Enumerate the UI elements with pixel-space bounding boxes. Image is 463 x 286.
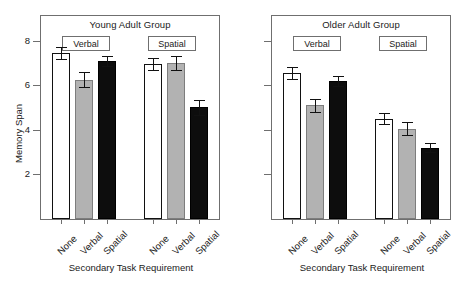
- x-tick-mark: [84, 220, 85, 224]
- error-bar-stem: [407, 122, 408, 134]
- x-tick-mark: [315, 220, 316, 224]
- error-bar-cap-bottom: [102, 66, 113, 67]
- y-tick-mark: [264, 41, 271, 42]
- x-tick-label-spatial: Spatial: [424, 228, 452, 256]
- y-tick-label: 8: [14, 36, 30, 45]
- error-bar-cap-bottom: [194, 115, 205, 116]
- bar-older-verbal-spatial: [329, 81, 347, 219]
- error-bar-cap-top: [56, 47, 67, 48]
- x-tick-label-verbal: Verbal: [170, 230, 197, 257]
- x-tick-label-spatial: Spatial: [193, 228, 221, 256]
- y-tick-mark: [264, 130, 271, 131]
- bar-older-spatial-verbal: [398, 129, 416, 219]
- error-bar-cap-top: [379, 113, 390, 114]
- y-tick-mark: [264, 174, 271, 175]
- error-bar-cap-top: [79, 72, 90, 73]
- bar-older-spatial-none: [375, 119, 393, 219]
- y-tick-mark: [33, 41, 40, 42]
- error-bar-cap-bottom: [287, 79, 298, 80]
- figure-caption-cutoff: [0, 279, 463, 286]
- error-bar-cap-top: [194, 100, 205, 101]
- error-bar-stem: [430, 143, 431, 152]
- error-bar-cap-bottom: [310, 112, 321, 113]
- x-tick-label-verbal: Verbal: [401, 230, 428, 257]
- x-tick-label-verbal: Verbal: [78, 230, 105, 257]
- x-tick-label-none: None: [147, 233, 171, 257]
- error-bar-stem: [292, 67, 293, 79]
- x-tick-mark: [292, 220, 293, 224]
- x-tick-mark: [107, 220, 108, 224]
- y-tick-label: 2: [14, 169, 30, 178]
- error-bar-cap-bottom: [333, 86, 344, 87]
- y-tick-mark: [264, 85, 271, 86]
- bar-young-spatial-spatial: [190, 107, 208, 219]
- y-tick-label: 4: [14, 125, 30, 134]
- x-tick-mark: [430, 220, 431, 224]
- x-tick-mark: [61, 220, 62, 224]
- x-tick-label-spatial: Spatial: [332, 228, 360, 256]
- error-bar-cap-bottom: [79, 87, 90, 88]
- figure-bar-chart-memory-span: Memory Span 2468 Young Adult Group Verba…: [0, 0, 463, 286]
- plot-area-right: [272, 16, 450, 219]
- error-bar-stem: [107, 56, 108, 66]
- error-bar-cap-bottom: [171, 70, 182, 71]
- error-bar-cap-bottom: [56, 59, 67, 60]
- x-tick-label-none: None: [378, 233, 402, 257]
- error-bar-cap-top: [402, 122, 413, 123]
- error-bar-cap-top: [310, 99, 321, 100]
- bar-young-verbal-none: [52, 53, 70, 219]
- bar-older-verbal-none: [283, 73, 301, 219]
- error-bar-cap-top: [287, 67, 298, 68]
- x-tick-mark: [407, 220, 408, 224]
- bar-young-spatial-verbal: [167, 63, 185, 219]
- error-bar-cap-bottom: [379, 124, 390, 125]
- panel-young-adult-group: Memory Span 2468 Young Adult Group Verba…: [0, 0, 232, 286]
- x-tick-mark: [384, 220, 385, 224]
- error-bar-stem: [384, 113, 385, 124]
- y-tick-mark: [33, 85, 40, 86]
- bar-older-verbal-verbal: [306, 105, 324, 219]
- bar-older-spatial-spatial: [421, 148, 439, 219]
- x-axis-title-left: Secondary Task Requirement: [40, 262, 222, 273]
- error-bar-cap-bottom: [425, 152, 436, 153]
- bar-young-spatial-none: [144, 64, 162, 219]
- x-tick-label-none: None: [286, 233, 310, 257]
- bar-young-verbal-verbal: [75, 80, 93, 219]
- bar-young-verbal-spatial: [98, 61, 116, 219]
- y-tick-label: 6: [14, 80, 30, 89]
- x-tick-label-spatial: Spatial: [101, 228, 129, 256]
- error-bar-cap-bottom: [148, 70, 159, 71]
- panel-older-adult-group: Older Adult Group Verbal Spatial NoneVer…: [231, 0, 463, 286]
- error-bar-stem: [176, 56, 177, 69]
- y-tick-mark: [33, 130, 40, 131]
- x-tick-label-none: None: [55, 233, 79, 257]
- x-tick-label-verbal: Verbal: [309, 230, 336, 257]
- error-bar-cap-top: [333, 76, 344, 77]
- error-bar-stem: [338, 76, 339, 86]
- error-bar-stem: [315, 99, 316, 112]
- x-tick-mark: [153, 220, 154, 224]
- x-tick-mark: [176, 220, 177, 224]
- error-bar-stem: [153, 58, 154, 70]
- y-tick-mark: [33, 174, 40, 175]
- error-bar-cap-bottom: [402, 135, 413, 136]
- error-bar-cap-top: [171, 56, 182, 57]
- plot-area-left: [41, 16, 219, 219]
- error-bar-cap-top: [148, 58, 159, 59]
- error-bar-cap-top: [425, 143, 436, 144]
- x-axis-title-right: Secondary Task Requirement: [271, 262, 453, 273]
- error-bar-cap-top: [102, 56, 113, 57]
- x-tick-mark: [338, 220, 339, 224]
- x-tick-mark: [199, 220, 200, 224]
- error-bar-stem: [84, 72, 85, 87]
- error-bar-stem: [61, 47, 62, 59]
- error-bar-stem: [199, 100, 200, 115]
